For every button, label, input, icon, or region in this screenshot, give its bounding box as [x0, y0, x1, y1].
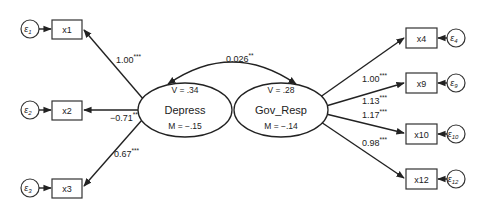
svg-text:x9: x9 — [417, 79, 427, 89]
svg-text:M = −.15: M = −.15 — [168, 121, 202, 131]
error-e10: ε10 — [447, 125, 465, 143]
observed-x9: x9 — [406, 73, 437, 93]
sem-path-diagram: 0.026** 1.00*** −0.71*** 0.67*** 1.00***… — [0, 0, 489, 208]
svg-text:x3: x3 — [62, 184, 72, 194]
error-e2: ε2 — [21, 101, 39, 119]
error-e3: ε3 — [21, 179, 39, 197]
path-depress-x1 — [84, 30, 144, 100]
latent-gov-resp: V = .28 Gov_Resp M = −.14 — [234, 83, 328, 137]
covariance-label: 0.026** — [226, 52, 254, 64]
svg-text:x12: x12 — [414, 175, 429, 185]
svg-text:Depress: Depress — [165, 104, 206, 116]
loading-x1: 1.00*** — [116, 53, 142, 65]
path-govresp-x4 — [316, 38, 404, 100]
svg-text:x2: x2 — [62, 106, 72, 116]
error-e4: ε4 — [447, 29, 465, 47]
svg-text:V = .34: V = .34 — [171, 85, 198, 95]
observed-x2: x2 — [52, 101, 82, 120]
error-e9: ε9 — [447, 74, 465, 92]
observed-x1: x1 — [52, 20, 82, 39]
error-e12: ε12 — [447, 170, 465, 188]
observed-x12: x12 — [406, 169, 437, 189]
svg-text:M = −.14: M = −.14 — [264, 121, 298, 131]
loading-x3: 0.67*** — [114, 147, 140, 159]
path-govresp-x12 — [318, 120, 404, 178]
latent-depress: V = .34 Depress M = −.15 — [138, 83, 232, 137]
svg-text:x4: x4 — [417, 34, 427, 44]
covariance-arc — [168, 62, 296, 84]
loading-x10: 1.17*** — [362, 108, 388, 120]
svg-text:Gov_Resp: Gov_Resp — [255, 104, 307, 116]
svg-text:x10: x10 — [414, 130, 429, 140]
svg-text:V = .28: V = .28 — [267, 85, 294, 95]
observed-x4: x4 — [406, 28, 437, 48]
loading-x9: 1.13*** — [362, 94, 388, 106]
loading-x12: 0.98*** — [362, 136, 388, 148]
loading-x2: −0.71*** — [110, 111, 141, 123]
observed-x3: x3 — [52, 179, 82, 198]
observed-x10: x10 — [406, 124, 437, 144]
loading-x4: 1.00*** — [362, 72, 388, 84]
svg-text:x1: x1 — [62, 25, 72, 35]
error-e1: ε1 — [21, 20, 39, 38]
